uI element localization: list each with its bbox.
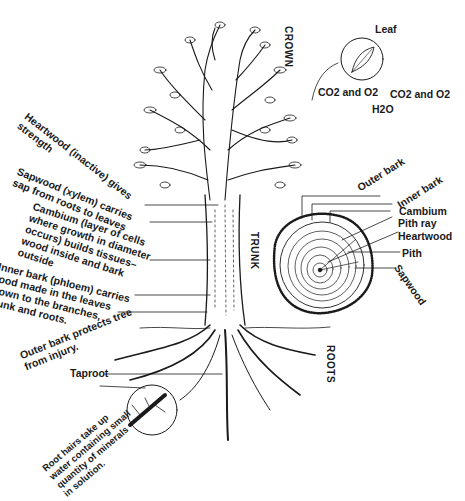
crown-drawing [140, 25, 295, 200]
roots-drawing [115, 325, 315, 440]
cs-cambium: Cambium [399, 205, 447, 217]
leaf-title: Leaf [375, 23, 397, 35]
cross-section-leaders [302, 196, 400, 268]
crown-leaves [134, 22, 301, 188]
leaf-water: H2O [372, 103, 394, 115]
trunk-label: TRUNK [249, 232, 260, 270]
roots-label: ROOTS [325, 345, 336, 383]
cs-pith-ray: Pith ray [398, 217, 437, 229]
leaf-gas-right: CO2 and O2 [390, 88, 450, 100]
leaf-gas-left: CO2 and O2 [318, 86, 378, 98]
trunk-drawing [205, 195, 245, 325]
label-taproot: Taproot [70, 367, 108, 379]
leaf-inset-circle [341, 38, 383, 80]
cross-section-drawing [274, 214, 372, 313]
cs-pith: Pith [402, 247, 422, 259]
cs-heartwood: Heartwood [398, 230, 452, 242]
crown-label: CROWN [283, 26, 294, 67]
